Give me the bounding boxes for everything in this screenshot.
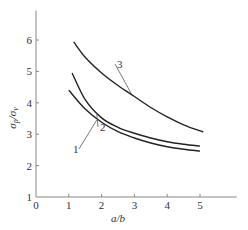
- y-tick-label: 4: [27, 97, 33, 109]
- x-tick-label: 1: [66, 199, 72, 211]
- x-tick-label: 5: [197, 199, 203, 211]
- x-tick-label: 4: [164, 199, 170, 211]
- chart: 012345123456 123 a/b σp/σv: [0, 0, 248, 230]
- y-tick-label: 3: [27, 128, 33, 140]
- curve-label-1: 1: [73, 143, 79, 155]
- curve-label-3: 3: [117, 58, 123, 70]
- y-axis-label-text: σp/σv: [6, 107, 20, 129]
- curves: 123: [69, 42, 203, 155]
- axes: 012345123456: [27, 11, 237, 211]
- curve-2: [72, 73, 200, 146]
- curve-label-leader: [79, 120, 97, 149]
- x-tick-label: 0: [33, 199, 39, 211]
- x-tick-label: 2: [99, 199, 105, 211]
- curve-label-2: 2: [100, 121, 106, 133]
- y-tick-label: 5: [27, 65, 33, 77]
- y-tick-label: 2: [27, 160, 33, 172]
- curve-1: [69, 90, 200, 151]
- x-tick-label: 3: [132, 199, 138, 211]
- x-axis-label: a/b: [111, 212, 126, 224]
- y-tick-label: 6: [27, 34, 33, 46]
- curve-3: [74, 42, 204, 132]
- y-tick-label: 1: [27, 191, 33, 203]
- y-axis-label: σp/σv: [6, 107, 20, 129]
